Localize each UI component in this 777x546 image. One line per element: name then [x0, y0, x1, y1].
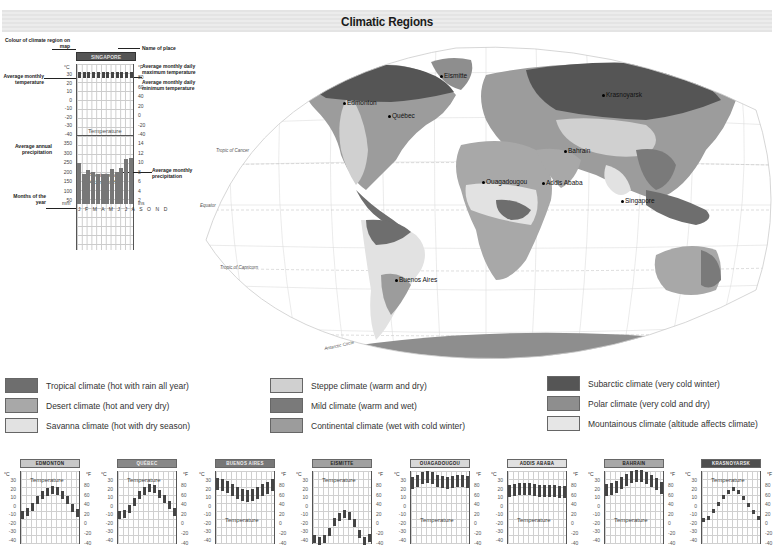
celsius-unit: °C [64, 64, 70, 70]
mm-tick: 50 [58, 197, 72, 203]
temp-bar [717, 502, 720, 506]
celsius-tick: 10 [586, 494, 600, 500]
fahrenheit-unit: °F [573, 471, 578, 477]
temp-bar [221, 479, 224, 491]
fahrenheit-tick: 20 [376, 511, 382, 517]
fahrenheit-tick: 40 [181, 501, 187, 507]
ins-tick: 2 [138, 197, 141, 203]
fahrenheit-tick: -40 [84, 540, 91, 546]
lat-tropic-cancer: Tropic of Cancer [216, 148, 249, 153]
fahrenheit-tick: -40 [571, 540, 578, 546]
fahrenheit-tick: 40 [765, 501, 771, 507]
fahrenheit-tick: 0 [181, 520, 184, 526]
celsius-tick: -40 [2, 537, 16, 543]
temp-bar [125, 72, 128, 78]
celsius-tick: -20 [2, 520, 16, 526]
celsius-tick: -40 [197, 537, 211, 543]
fahrenheit-tick: 40 [474, 501, 480, 507]
fahrenheit-unit: °F [281, 471, 286, 477]
celsius-tick: -40 [60, 131, 72, 137]
celsius-tick: -30 [60, 122, 72, 128]
fahrenheit-tick: 20 [181, 511, 187, 517]
temp-bar [31, 503, 34, 511]
temp-bar [610, 483, 613, 495]
celsius-tick: 10 [197, 494, 211, 500]
celsius-tick: 20 [489, 486, 503, 492]
fahrenheit-tick: 20 [765, 511, 771, 517]
annotation-name-of-place: Name of place [142, 46, 176, 52]
temp-bar [548, 485, 551, 497]
chart-place-name: QUÉBEC [117, 459, 177, 468]
key-place-label: SINGAPORE [76, 52, 136, 61]
fahrenheit-unit: °F [670, 471, 675, 477]
city-eismitte[interactable]: Eismitte [440, 72, 467, 79]
fahrenheit-tick: -40 [376, 540, 383, 546]
temp-bar [271, 479, 274, 491]
temp-bar [97, 72, 100, 78]
key-diagram: Colour of climate region on map Name of … [0, 36, 200, 236]
climate-chart-eismitte: EISMITTE °C °F 3020100-10-20-30-40806040… [292, 457, 388, 544]
temp-bar [558, 486, 561, 498]
legend-item-subarctic: Subarctic climate (very cold winter) [547, 376, 720, 391]
temp-bar [338, 513, 341, 521]
fahrenheit-tick: 40 [84, 501, 90, 507]
chart-place-name: BAHRAIN [604, 459, 664, 468]
temp-bar [120, 72, 123, 78]
precip-bar [96, 174, 100, 204]
city-addis-ababa[interactable]: Addis Ababa [542, 179, 583, 186]
fahrenheit-tick: -40 [138, 131, 145, 137]
fahrenheit-tick: -40 [279, 540, 286, 546]
temperature-label: Temperature [127, 477, 161, 483]
temp-bar [513, 484, 516, 496]
celsius-tick: -20 [294, 520, 308, 526]
temp-bar [138, 491, 141, 499]
celsius-tick: -30 [586, 528, 600, 534]
world-climate-map[interactable]: Eismitte Edmonton Québec Krasnoyarsk Bah… [196, 40, 772, 365]
city-ouagadougou[interactable]: Ouagadougou [482, 178, 527, 185]
precip-bar [124, 159, 128, 204]
celsius-tick: 20 [294, 486, 308, 492]
fahrenheit-tick: 20 [474, 511, 480, 517]
climate-chart-buenos-aires: BUENOS AIRES °C °F 3020100-10-20-30-4080… [195, 457, 291, 544]
temp-bar [111, 72, 114, 78]
city-quebec[interactable]: Québec [388, 112, 415, 119]
city-buenos-aires[interactable]: Buenos Aires [395, 276, 437, 283]
city-edmonton[interactable]: Edmonton [343, 99, 377, 106]
temp-bar [21, 511, 24, 519]
fahrenheit-tick: 80 [181, 482, 187, 488]
temp-bar [702, 518, 705, 522]
temp-bar [660, 482, 663, 494]
celsius-tick: 30 [392, 477, 406, 483]
temp-bar [36, 496, 39, 504]
celsius-tick: 0 [294, 503, 308, 509]
celsius-tick: 0 [392, 503, 406, 509]
mm-tick: 150 [58, 178, 72, 184]
temp-bar [266, 482, 269, 494]
title-bar: Climatic Regions [2, 10, 772, 32]
fahrenheit-tick: 40 [571, 501, 577, 507]
celsius-tick: 10 [99, 494, 113, 500]
fahrenheit-tick: 40 [138, 93, 144, 99]
temp-bar [655, 478, 658, 490]
celsius-tick: 30 [489, 477, 503, 483]
celsius-tick: -40 [294, 537, 308, 543]
temp-bar [323, 535, 326, 543]
city-krasnoyarsk[interactable]: Krasnoyarsk [602, 91, 642, 98]
fahrenheit-tick: 60 [279, 492, 285, 498]
city-bahrain[interactable]: Bahrain [564, 147, 590, 154]
celsius-tick: -30 [683, 528, 697, 534]
legend-item-steppe: Steppe climate (warm and dry) [270, 378, 427, 393]
climate-chart-qu-bec: QUÉBEC °C °F 3020100-10-20-30-4080604020… [97, 457, 193, 544]
legend-label: Tropical climate (hot with rain all year… [46, 381, 189, 391]
celsius-tick: -40 [586, 537, 600, 543]
swatch-mountainous [547, 416, 580, 431]
temp-bar [163, 495, 166, 503]
celsius-tick: -40 [683, 537, 697, 543]
divider [76, 135, 134, 136]
city-singapore[interactable]: Singapore [621, 197, 655, 204]
precip-bar [115, 172, 119, 204]
fahrenheit-tick: 40 [376, 501, 382, 507]
temp-bar [261, 484, 264, 496]
celsius-tick: 10 [294, 494, 308, 500]
temp-bar [56, 487, 59, 495]
